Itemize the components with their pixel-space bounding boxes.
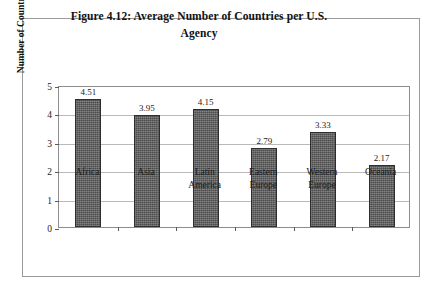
x-tick-mark <box>176 227 177 231</box>
x-tick-mark <box>352 227 353 231</box>
x-category-label: Africa <box>58 166 117 179</box>
bar-value-label: 4.51 <box>80 87 96 97</box>
plot-area: 012345 4.513.954.152.793.332.17 <box>58 86 410 228</box>
x-category-label-line: Eastern <box>234 166 293 179</box>
chart-title-line-1: Figure 4.12: Average Number of Countries… <box>40 8 358 25</box>
x-category-label: Oceania <box>351 166 410 179</box>
bar-slot: 2.79 <box>235 87 294 227</box>
x-tick-mark <box>118 227 119 231</box>
chart-title: Figure 4.12: Average Number of Countries… <box>40 8 358 42</box>
bar-slot: 3.95 <box>118 87 177 227</box>
x-category-label: LatinAmerica <box>175 166 234 192</box>
x-category-label-line: Asia <box>117 166 176 179</box>
bar-value-label: 2.17 <box>374 153 390 163</box>
bar-slot: 2.17 <box>352 87 411 227</box>
bar-slot: 4.51 <box>59 87 118 227</box>
x-category-label: Asia <box>117 166 176 179</box>
x-category-label-line: Europe <box>293 179 352 192</box>
y-tick-mark <box>55 229 59 230</box>
x-category-label-line: Latin <box>175 166 234 179</box>
bar-value-label: 4.15 <box>198 97 214 107</box>
x-category-label-line: Oceania <box>351 166 410 179</box>
x-category-label: WesternEurope <box>293 166 352 192</box>
x-category-label-line: America <box>175 179 234 192</box>
y-tick-label: 3 <box>36 139 52 149</box>
y-tick-label: 1 <box>36 196 52 206</box>
bar <box>75 99 101 227</box>
x-tick-mark <box>294 227 295 231</box>
bar-value-label: 3.33 <box>315 120 331 130</box>
y-axis-title: Number of Countries <box>16 0 30 101</box>
bar-value-label: 2.79 <box>256 136 272 146</box>
y-tick-label: 0 <box>36 224 52 234</box>
chart-title-line-2: Agency <box>40 25 358 42</box>
x-category-label: EasternEurope <box>234 166 293 192</box>
y-tick-label: 2 <box>36 167 52 177</box>
x-category-label-line: Western <box>293 166 352 179</box>
y-tick-label: 4 <box>36 110 52 120</box>
y-tick-label: 5 <box>36 82 52 92</box>
x-tick-mark <box>235 227 236 231</box>
x-category-label-line: Europe <box>234 179 293 192</box>
bar-slot: 4.15 <box>176 87 235 227</box>
bar-value-label: 3.95 <box>139 103 155 113</box>
x-category-label-line: Africa <box>58 166 117 179</box>
figure-frame: 012345 4.513.954.152.793.332.17 Number o… <box>22 18 420 277</box>
bar-slot: 3.33 <box>294 87 353 227</box>
